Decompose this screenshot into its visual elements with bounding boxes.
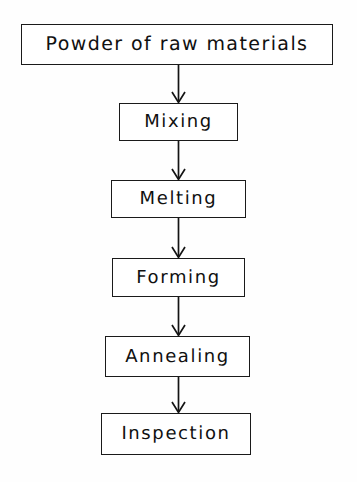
arrow-forming-to-annealing (172, 297, 185, 336)
flow-node-annealing[interactable]: Annealing (105, 336, 250, 377)
flow-node-inspection[interactable]: Inspection (101, 413, 251, 455)
flow-node-powder-of-raw-materials[interactable]: Powder of raw materials (21, 24, 333, 65)
flow-node-label: Melting (140, 190, 218, 208)
flow-node-label: Mixing (144, 113, 213, 131)
flowchart-canvas: Powder of raw materials Mixing Melting F… (0, 0, 357, 482)
connector-layer (0, 0, 357, 482)
arrow-powder-to-mixing (172, 65, 185, 103)
flow-node-label: Powder of raw materials (46, 35, 309, 54)
arrow-melting-to-forming (172, 218, 185, 258)
flow-node-forming[interactable]: Forming (112, 258, 245, 297)
arrow-annealing-to-inspection (172, 377, 185, 413)
flow-node-label: Inspection (121, 425, 230, 443)
flow-node-label: Annealing (125, 348, 230, 366)
flow-node-mixing[interactable]: Mixing (119, 103, 238, 141)
flow-node-label: Forming (136, 269, 221, 287)
arrow-mixing-to-melting (172, 141, 185, 180)
flow-node-melting[interactable]: Melting (111, 180, 246, 218)
